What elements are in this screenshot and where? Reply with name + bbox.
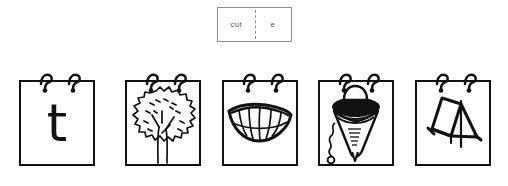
cut-label-left-text: cut: [218, 8, 255, 41]
cut-label-box: cut e: [217, 7, 292, 42]
flip-card-letter-t[interactable]: t: [19, 70, 95, 166]
card-artwork-tent: [415, 80, 491, 166]
flip-card-tent[interactable]: [415, 70, 491, 166]
flip-card-row: t: [0, 60, 508, 172]
teeth-smile-icon: [226, 101, 294, 145]
spinning-top-icon: [321, 81, 391, 165]
cut-label-right-text: e: [255, 8, 292, 41]
flip-card-top[interactable]: [318, 70, 394, 166]
flip-card-teeth[interactable]: [222, 70, 298, 166]
flip-card-tree[interactable]: [125, 70, 201, 166]
card-artwork-tree: [125, 80, 201, 166]
card-artwork-top: [318, 80, 394, 166]
card-artwork-letter-t: t: [19, 80, 95, 166]
letter-glyph: t: [47, 97, 67, 149]
tree-icon: [126, 81, 200, 165]
tent-icon: [418, 85, 488, 161]
card-artwork-teeth: [222, 80, 298, 166]
